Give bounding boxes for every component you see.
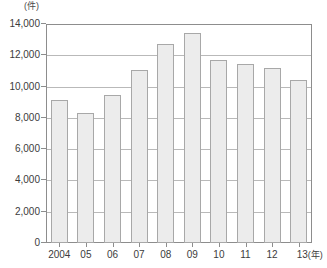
x-axis-tick-label: 11: [232, 249, 259, 261]
y-axis-tick-label: 4,000: [0, 175, 40, 185]
y-axis-tick-label: 0: [0, 238, 40, 248]
x-axis-tick-mark: [166, 243, 167, 247]
bar: [264, 68, 281, 243]
x-axis-tick-label: 2004: [46, 249, 73, 261]
x-axis-tick-mark: [299, 243, 300, 247]
bars-group: [46, 24, 312, 243]
x-axis-tick-mark: [113, 243, 114, 247]
bar: [290, 80, 307, 243]
bar: [51, 100, 68, 243]
x-axis-tick-mark: [139, 243, 140, 247]
x-axis-tick-label: 12: [259, 249, 286, 261]
y-axis-tick-label: 14,000: [0, 19, 40, 29]
y-axis-tick-label: 2,000: [0, 207, 40, 217]
y-axis-tick-label: 10,000: [0, 82, 40, 92]
x-axis-tick-mark: [219, 243, 220, 247]
bar: [104, 95, 121, 243]
x-axis-tick-label: 10: [206, 249, 233, 261]
x-axis-tick-label: 09: [179, 249, 206, 261]
bar: [77, 113, 94, 243]
y-axis-tick-label: 8,000: [0, 113, 40, 123]
y-axis-tick-label: 12,000: [0, 50, 40, 60]
bar: [131, 70, 148, 243]
x-axis-tick-label: 06: [99, 249, 126, 261]
x-axis-unit-label: (年): [308, 250, 323, 260]
x-axis-tick-mark: [246, 243, 247, 247]
bar: [237, 64, 254, 243]
y-axis-unit-label: (件): [24, 1, 39, 12]
x-axis-tick-label: 05: [73, 249, 100, 261]
bar: [210, 60, 227, 243]
bar: [184, 33, 201, 243]
x-axis-tick-mark: [192, 243, 193, 247]
x-axis-tick-mark: [272, 243, 273, 247]
x-axis-tick-label: 13(年): [285, 249, 327, 261]
y-axis-tick-label: 6,000: [0, 144, 40, 154]
bar: [157, 44, 174, 243]
x-axis-tick-label: 08: [152, 249, 179, 261]
x-axis-tick-label: 07: [126, 249, 153, 261]
x-axis-tick-mark: [59, 243, 60, 247]
x-axis-tick-mark: [86, 243, 87, 247]
